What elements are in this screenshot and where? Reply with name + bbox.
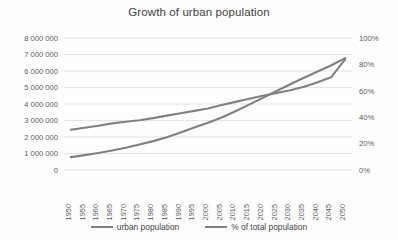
x-axis-tick: 1995 bbox=[187, 204, 196, 220]
x-axis-tick: 2035 bbox=[297, 204, 306, 220]
legend-swatch-icon bbox=[91, 226, 113, 228]
series-percent-total-population bbox=[71, 59, 345, 129]
x-axis-tick: 2030 bbox=[283, 204, 292, 220]
chart-legend: urban population % of total population bbox=[0, 222, 398, 232]
x-axis-tick: 1975 bbox=[132, 204, 141, 220]
x-axis-tick: 1950 bbox=[64, 204, 73, 220]
x-axis-tick: 2045 bbox=[324, 204, 333, 220]
left-axis-tick: 5 000 000 bbox=[24, 83, 58, 92]
x-axis-tick: 1955 bbox=[78, 204, 87, 220]
left-axis-tick: 0 bbox=[54, 166, 58, 175]
gridlines bbox=[64, 38, 352, 170]
left-axis-tick: 8 000 000 bbox=[24, 34, 58, 43]
x-axis-tick: 2005 bbox=[215, 204, 224, 220]
x-axis-category-labels: 1950195519601965197019751980198519901995… bbox=[64, 204, 347, 220]
x-axis-tick: 1970 bbox=[119, 204, 128, 220]
left-axis-tick: 4 000 000 bbox=[24, 100, 58, 109]
left-axis-tick: 1 000 000 bbox=[24, 149, 58, 158]
left-axis-tick: 7 000 000 bbox=[24, 50, 58, 59]
right-axis-tick: 20% bbox=[359, 139, 374, 148]
left-axis-tick: 6 000 000 bbox=[24, 67, 58, 76]
legend-item-urban-population[interactable]: urban population bbox=[91, 222, 179, 232]
left-axis-tick: 3 000 000 bbox=[24, 116, 58, 125]
right-axis-tick-labels: 0%20%40%60%80%100% bbox=[359, 34, 379, 175]
x-axis-tick: 2040 bbox=[311, 204, 320, 220]
x-axis-tick: 2010 bbox=[228, 204, 237, 220]
x-axis-tick: 2020 bbox=[256, 204, 265, 220]
x-axis-tick: 2015 bbox=[242, 204, 251, 220]
right-axis-tick: 0% bbox=[359, 166, 370, 175]
right-axis-tick: 100% bbox=[359, 34, 379, 43]
chart-container: Growth of urban population 01 000 0002 0… bbox=[0, 0, 398, 240]
legend-label-urban-population: urban population bbox=[117, 222, 179, 232]
left-axis-tick: 2 000 000 bbox=[24, 133, 58, 142]
x-axis-tick: 2025 bbox=[270, 204, 279, 220]
x-axis-tick: 1990 bbox=[174, 204, 183, 220]
legend-label-percent-total-population: % of total population bbox=[231, 222, 307, 232]
x-axis-tick: 2000 bbox=[201, 204, 210, 220]
chart-plot-area: 01 000 0002 000 0003 000 0004 000 0005 0… bbox=[0, 0, 398, 240]
line-percent-total-population bbox=[71, 59, 345, 129]
x-axis-tick: 1965 bbox=[105, 204, 114, 220]
right-axis-tick: 60% bbox=[359, 87, 374, 96]
x-axis-tick: 1960 bbox=[91, 204, 100, 220]
x-axis-tick: 1985 bbox=[160, 204, 169, 220]
right-axis-tick: 80% bbox=[359, 60, 374, 69]
x-axis-tick: 2050 bbox=[338, 204, 347, 220]
legend-item-percent-total-population[interactable]: % of total population bbox=[205, 222, 307, 232]
x-axis-tick: 1980 bbox=[146, 204, 155, 220]
left-axis-tick-labels: 01 000 0002 000 0003 000 0004 000 0005 0… bbox=[24, 34, 58, 175]
legend-swatch-icon bbox=[205, 226, 227, 228]
right-axis-tick: 40% bbox=[359, 113, 374, 122]
